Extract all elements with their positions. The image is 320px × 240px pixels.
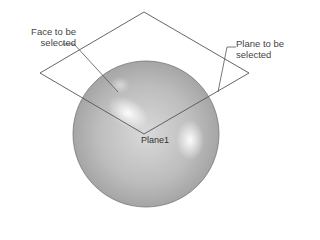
plane-label-line1: Plane to be bbox=[236, 38, 296, 49]
plane-to-be-selected-label: Plane to be selected bbox=[236, 38, 296, 60]
face-to-be-selected-label: Face to be selected bbox=[20, 26, 76, 48]
sphere[interactable] bbox=[73, 61, 219, 207]
plane-label-line2: selected bbox=[236, 49, 296, 60]
face-label-line1: Face to be bbox=[20, 26, 76, 37]
plane1-name-label: Plane1 bbox=[141, 135, 169, 146]
plane-leader-line bbox=[218, 47, 236, 92]
face-label-line2: selected bbox=[20, 37, 76, 48]
